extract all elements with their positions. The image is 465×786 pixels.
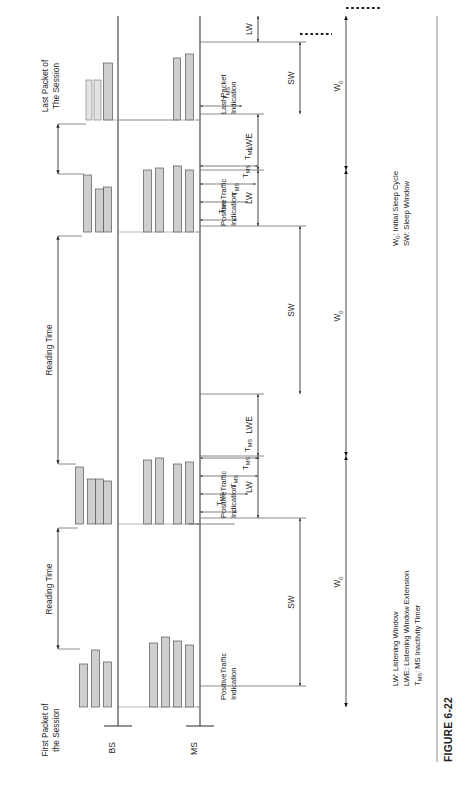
bs-packet-bar (104, 662, 112, 707)
interval-label-lwe-1: LWE (244, 416, 254, 434)
ms-packet-bar (174, 464, 182, 524)
bs-packet-bar (92, 650, 100, 707)
ms-packet-bar (162, 637, 170, 707)
event-label-last-packet-line1: Last Packet of (40, 59, 50, 112)
bs-packet-bar (96, 189, 104, 232)
bs-packet-bar (86, 80, 92, 120)
ms-packet-bar (156, 168, 164, 232)
ms-packet-bar (186, 170, 194, 232)
legend-item-lw: LW: Listening Window (391, 611, 400, 686)
bs-packet-bar (94, 80, 101, 120)
event-label-last-packet-line2: The Session (51, 63, 61, 110)
ms-packet-bar (156, 458, 164, 524)
interval-label-sw-1: SW (286, 595, 296, 609)
ms-packet-bar (174, 58, 181, 120)
interval-label-sw-2: SW (286, 303, 296, 317)
legend-bottom: W0: Initial Sleep Cycle SW: Sleep Window (391, 171, 411, 246)
reading-time-3 (58, 124, 86, 174)
timing-diagram-svg: BS MS First Packet of the Session Posit (0, 0, 465, 786)
inactivity-timer-label: TMS (215, 493, 225, 506)
ms-packet-bar (174, 641, 182, 707)
interval-lw-cycle-3: LW (244, 16, 258, 42)
interval-label-lw-1: LW (244, 481, 254, 493)
bs-packet-bar (76, 467, 84, 524)
reading-time-2: Reading Time (44, 236, 82, 464)
event-label-first-packet-line2: the Session (51, 708, 61, 752)
ms-burst-group-4 (174, 54, 194, 120)
event-label-positive-traffic-2-line2: Indication (229, 485, 238, 518)
figure-page: BS MS First Packet of the Session Posit (0, 0, 465, 786)
event-label-first-packet-line1: First Packet of (40, 703, 50, 757)
bs-burst-group-2 (76, 467, 112, 524)
bs-burst-group-3 (84, 175, 112, 232)
legend-top: LW: Listening Window LWE: Listening Wind… (391, 571, 423, 686)
figure-caption: FIGURE 6-22 (443, 697, 454, 762)
event-label-reading-time: Reading Time (44, 324, 54, 376)
ms-packet-bar (186, 462, 194, 524)
bs-packet-bar (96, 479, 104, 524)
inactivity-timer-label: TMS (230, 183, 240, 196)
lane-label-bs: BS (107, 742, 117, 754)
inactivity-timer-label: TMS (229, 475, 239, 488)
continuation-markers (300, 8, 380, 34)
interval-label-w0-3: W0 (332, 81, 344, 92)
reading-time-1: Reading Time (44, 528, 80, 649)
interval-label-w0-2: W0 (332, 311, 344, 322)
interval-label-lw-3: LW (244, 23, 254, 35)
bs-packet-bar (80, 664, 88, 707)
ms-burst-group-3 (144, 166, 194, 232)
inactivity-timer-label: TMS (241, 457, 251, 470)
ms-burst-group-1 (150, 637, 194, 707)
event-label-positive-traffic-1-line1: PositiveTraffic (219, 653, 228, 700)
interval-w0-cycle-2: W0 (332, 170, 346, 456)
inactivity-timer-label: TMS (243, 439, 253, 452)
event-label-positive-traffic-3-line2: Indication (229, 193, 238, 226)
interval-w0-cycle-3: W0 (332, 16, 346, 170)
bs-packet-bar (104, 481, 112, 524)
ms-packet-bar (186, 645, 194, 707)
bs-packet-bar (104, 187, 112, 232)
legend-item-w0: W0: Initial Sleep Cycle (391, 171, 401, 246)
legend-item-lwe: LWE: Listening Window Extension (402, 571, 411, 686)
interval-sw-cycle-1: SW (200, 518, 306, 686)
interval-sw-cycle-2: SW (200, 226, 306, 394)
bs-packet-bar (88, 479, 96, 524)
lane-label-ms: MS (189, 742, 199, 755)
ms-packet-bar (186, 54, 194, 120)
ms-packet-bar (144, 170, 152, 232)
inactivity-timer-label: TMS (241, 165, 251, 178)
interval-lwe-cycle-2: LWE (200, 114, 264, 170)
bs-burst-group-4 (86, 63, 113, 120)
ms-packet-bar (174, 166, 182, 232)
legend-item-tms: TMS: MS Inactivity Timer (413, 604, 423, 686)
bs-packet-bar (104, 63, 113, 120)
interval-label-w0-1: W0 (332, 577, 344, 588)
event-label-positive-traffic-1-line2: Indication (229, 667, 238, 700)
interval-lwe-cycle-1: LWE (200, 394, 264, 456)
interval-w0-cycle-1: W0 (332, 456, 346, 707)
ms-packet-bar (144, 460, 152, 524)
ms-packet-bar (150, 643, 158, 707)
bs-packet-bar (84, 175, 92, 232)
interval-sw-cycle-3: SW (200, 42, 306, 114)
event-label-reading-time: Reading Time (44, 563, 54, 615)
ms-burst-group-2 (144, 458, 194, 524)
legend-item-sw: SW: Sleep Window (402, 181, 411, 246)
interval-label-sw-3: SW (286, 71, 296, 85)
bs-burst-group-1 (80, 650, 112, 707)
